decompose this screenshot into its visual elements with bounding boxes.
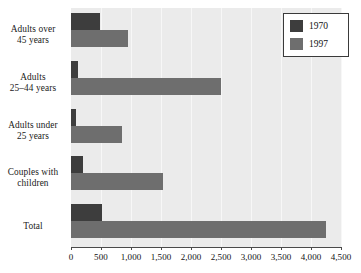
tick-mark xyxy=(311,247,312,250)
category-label-line: 45 years xyxy=(0,35,66,46)
category-label-line: Adults xyxy=(0,72,66,83)
bar-1997-0 xyxy=(71,30,128,47)
category-label: Adults over45 years xyxy=(0,24,66,46)
tick-mark xyxy=(281,247,282,250)
legend-swatch-icon xyxy=(290,38,303,50)
gridline xyxy=(161,8,162,247)
bar-1970-2 xyxy=(71,109,76,126)
bar-1997-1 xyxy=(71,78,221,95)
category-label: Couples withchildren xyxy=(0,167,66,189)
category-label: Adults25–44 years xyxy=(0,72,66,94)
gridline xyxy=(221,8,222,247)
bar-1997-2 xyxy=(71,126,122,143)
bar-1970-1 xyxy=(71,61,78,78)
bar-1970-3 xyxy=(71,156,83,173)
chart-legend: 1970 1997 xyxy=(283,13,349,57)
category-label: Total xyxy=(0,221,66,232)
category-label: Adults under25 years xyxy=(0,120,66,142)
tick-mark xyxy=(101,247,102,250)
tick-mark xyxy=(341,247,342,250)
tick-mark xyxy=(131,247,132,250)
gridline xyxy=(251,8,252,247)
category-label-line: children xyxy=(0,178,66,189)
legend-label: 1997 xyxy=(309,37,328,51)
category-label-line: Adults under xyxy=(0,120,66,131)
gridline xyxy=(281,8,282,247)
bar-1970-0 xyxy=(71,13,100,30)
bar-1997-4 xyxy=(71,221,326,238)
tick-mark xyxy=(251,247,252,250)
gridline xyxy=(191,8,192,247)
legend-label: 1970 xyxy=(309,19,328,33)
bar-1970-4 xyxy=(71,204,102,221)
x-axis-line xyxy=(71,247,342,248)
tick-mark xyxy=(161,247,162,250)
gridline xyxy=(131,8,132,247)
category-label-line: 25–44 years xyxy=(0,83,66,94)
legend-swatch-icon xyxy=(290,20,303,32)
tick-mark xyxy=(191,247,192,250)
category-label-line: Couples with xyxy=(0,167,66,178)
category-label-line: Total xyxy=(0,221,66,232)
category-label-line: Adults over xyxy=(0,24,66,35)
category-label-line: 25 years xyxy=(0,131,66,142)
tick-label: 4,500 xyxy=(321,252,361,262)
tick-mark xyxy=(221,247,222,250)
bar-1997-3 xyxy=(71,173,163,190)
tick-mark xyxy=(71,247,72,250)
bar-chart: Adults over45 yearsAdults25–44 yearsAdul… xyxy=(0,0,361,273)
